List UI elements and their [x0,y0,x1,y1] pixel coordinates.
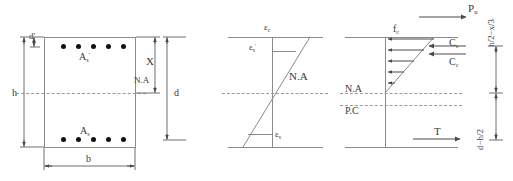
concrete-stress-block-triangle [385,37,434,93]
lever-arm-dimension-chain [489,46,503,140]
strain-profile-line [243,37,310,147]
h-dimension-line [20,37,44,147]
d-dimension-line [163,37,186,140]
figure-vector-overlay [0,0,513,181]
figure-canvas: As' As h d' X N.A d b εc εs' εs N.A N.A … [0,0,513,181]
d-prime-dimension-line [30,37,40,47]
b-dimension-line [44,148,135,170]
x-dimension-line [136,37,160,93]
